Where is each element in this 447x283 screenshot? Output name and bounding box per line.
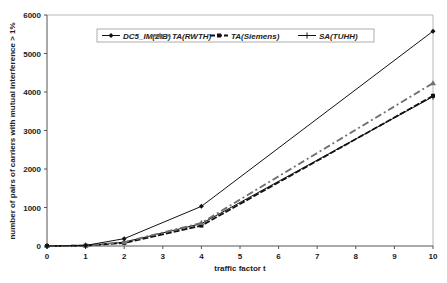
x-tick-label: 8 [354, 252, 359, 261]
chart-background [0, 0, 447, 283]
x-axis-title: traffic factor t [214, 264, 266, 273]
x-tick-label: 6 [276, 252, 281, 261]
y-axis-title: number of pairs of carriers with mutual … [8, 22, 17, 239]
legend-label: TA(Siemens) [231, 32, 280, 41]
line-chart: 0100020003000400050006000 012345678910 D… [0, 0, 447, 283]
legend-label: TA(RWTH) [172, 32, 212, 41]
x-tick-label: 5 [238, 252, 243, 261]
x-tick-label: 3 [161, 252, 166, 261]
legend-marker [217, 34, 221, 38]
legend-label: SA(TUHH) [319, 32, 358, 41]
y-tick-label: 1000 [23, 204, 41, 213]
x-tick-label: 9 [392, 252, 397, 261]
y-tick-label: 4000 [23, 88, 41, 97]
x-tick-label: 10 [429, 252, 438, 261]
y-tick-label: 3000 [23, 127, 41, 136]
x-tick-label: 2 [122, 252, 127, 261]
x-tick-label: 1 [83, 252, 88, 261]
y-tick-label: 5000 [23, 50, 41, 59]
legend: DC5_IM(ZIB)TA(RWTH)TA(Siemens)SA(TUHH) [97, 29, 374, 42]
y-tick-label: 0 [37, 242, 42, 251]
x-tick-label: 4 [199, 252, 204, 261]
data-point-marker [431, 94, 435, 98]
x-tick-label: 7 [315, 252, 320, 261]
y-tick-label: 6000 [23, 11, 41, 20]
y-tick-label: 2000 [23, 165, 41, 174]
x-tick-label: 0 [45, 252, 50, 261]
